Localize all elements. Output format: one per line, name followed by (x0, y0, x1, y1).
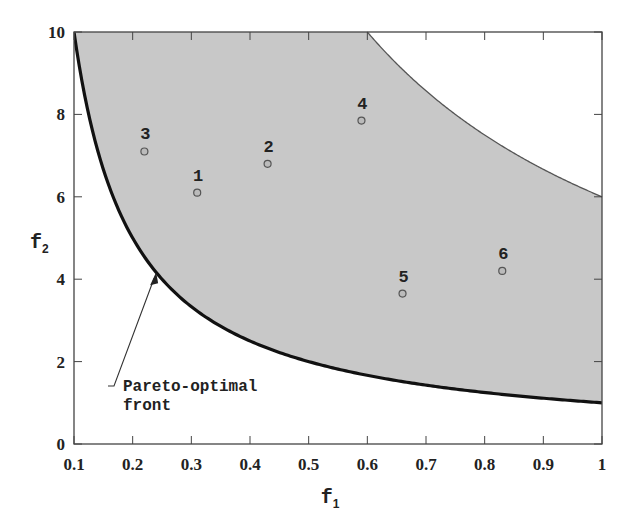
data-point (264, 160, 271, 167)
data-point-label: 5 (398, 268, 408, 287)
data-point-label: 4 (357, 95, 367, 114)
y-tick-label: 2 (57, 353, 66, 372)
y-tick-label: 4 (57, 270, 66, 289)
x-tick-label: 0.1 (63, 455, 84, 474)
annotation-text-line1: Pareto-optimal (123, 378, 257, 396)
data-point (194, 189, 201, 196)
annotation-arrow-line (108, 278, 154, 386)
y-tick-label: 6 (57, 188, 66, 207)
data-point-label: 1 (193, 167, 203, 186)
y-tick-label: 10 (48, 23, 65, 42)
feasible-region (74, 32, 602, 403)
data-point-label: 6 (498, 245, 508, 264)
x-tick-label: 0.6 (357, 455, 378, 474)
annotation-text-line2: front (123, 397, 171, 415)
data-point-label: 3 (140, 125, 150, 144)
x-tick-label: 0.3 (181, 455, 202, 474)
x-tick-label: 1 (598, 455, 607, 474)
pareto-chart: 0.10.20.30.40.50.60.70.80.910246810f1f21… (0, 0, 637, 527)
data-point (499, 267, 506, 274)
y-tick-label: 0 (57, 435, 66, 454)
x-tick-label: 0.7 (415, 455, 437, 474)
x-tick-label: 0.8 (474, 455, 495, 474)
y-axis-label: f2 (30, 231, 49, 256)
x-tick-label: 0.5 (298, 455, 319, 474)
data-point (141, 148, 148, 155)
data-point (399, 290, 406, 297)
x-tick-label: 0.4 (239, 455, 261, 474)
data-point-label: 2 (263, 138, 273, 157)
x-tick-label: 0.2 (122, 455, 143, 474)
data-point (358, 117, 365, 124)
y-tick-label: 8 (57, 105, 66, 124)
x-tick-label: 0.9 (533, 455, 554, 474)
x-axis-label: f1 (321, 486, 340, 511)
